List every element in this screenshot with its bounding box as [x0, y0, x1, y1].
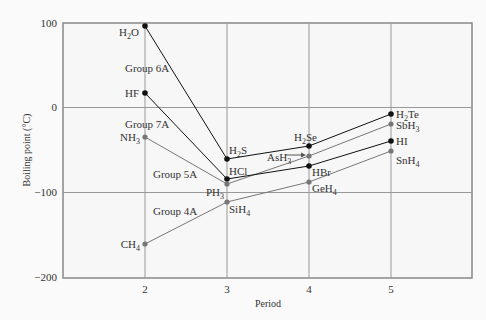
y-tick-minus100: −100: [34, 186, 57, 198]
point-ch4: [142, 241, 147, 246]
group-label-5a: Group 5A: [153, 168, 197, 180]
label-hcl: HCl: [229, 165, 247, 177]
point-ph3: [224, 181, 229, 186]
boiling-point-chart: 100 0 −100 −200 2 3 4 5 Period Boiling p…: [0, 0, 486, 320]
point-snh4: [388, 148, 393, 153]
y-tick-0: 0: [52, 101, 58, 113]
point-hbr: [306, 163, 312, 169]
point-geh4: [306, 179, 311, 184]
point-h2te: [388, 111, 394, 117]
label-hi: HI: [396, 135, 408, 147]
y-tick-100: 100: [41, 17, 58, 29]
x-tick-4: 4: [306, 283, 312, 295]
group-label-4a: Group 4A: [153, 205, 197, 217]
x-tick-3: 3: [224, 283, 230, 295]
point-hi: [388, 138, 394, 144]
point-h2se: [306, 143, 312, 149]
x-axis-label: Period: [255, 298, 281, 309]
point-h2s: [224, 156, 230, 162]
x-tick-labels: 2 3 4 5: [142, 283, 394, 295]
y-axis-label: Boiling point (°C): [21, 114, 33, 187]
point-sbh3: [388, 121, 393, 126]
point-nh3: [142, 134, 147, 139]
group-label-6a: Group 6A: [125, 62, 169, 74]
point-h2o: [142, 23, 148, 29]
label-hbr: HBr: [312, 166, 331, 178]
point-hcl: [224, 176, 230, 182]
y-tick-minus200: −200: [34, 271, 57, 283]
group-label-7a: Group 7A: [125, 118, 169, 130]
x-tick-5: 5: [388, 283, 394, 295]
y-tick-labels: 100 0 −100 −200: [34, 17, 57, 283]
point-ash3: [306, 153, 311, 158]
label-hf: HF: [125, 87, 139, 99]
x-tick-2: 2: [142, 283, 148, 295]
point-hf: [142, 90, 148, 96]
